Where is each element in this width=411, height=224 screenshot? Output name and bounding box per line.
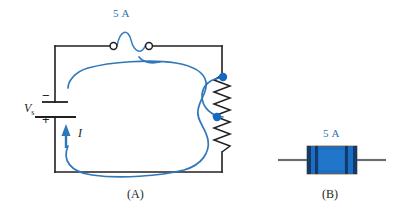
node-resistor-top	[219, 73, 227, 81]
physical-fuse	[278, 146, 386, 174]
current-label: I	[78, 127, 82, 139]
figure-container: 5 A Vs − + I (A) 5 A (B)	[0, 0, 411, 224]
circuit-drawing	[0, 0, 411, 224]
fuse-rating-label-a: 5 A	[113, 8, 130, 19]
source-label: Vs	[24, 102, 34, 117]
panel-a-caption: (A)	[127, 188, 144, 200]
fuse-terminal-right	[146, 43, 153, 50]
source-label-sub: s	[31, 108, 34, 117]
fuse-band-left-inner	[315, 146, 318, 174]
current-arrow-head	[62, 124, 71, 136]
fuse-band-right-outer	[353, 146, 357, 174]
source-negative-sign: −	[42, 89, 50, 102]
panel-b-caption: (B)	[322, 188, 338, 200]
fuse-band-right-inner	[345, 146, 348, 174]
fuse-terminal-left	[110, 43, 117, 50]
current-loop-resistor-hook	[202, 78, 223, 117]
fuse-wire-curve	[117, 32, 146, 51]
circuit-frame-wires	[55, 46, 222, 172]
fuse-rating-label-b: 5 A	[323, 128, 340, 139]
current-loop-trace	[66, 57, 223, 177]
fuse-body-highlight	[319, 150, 344, 170]
fuse-symbol	[110, 32, 152, 51]
node-resistor-tap	[213, 113, 221, 121]
source-positive-sign: +	[42, 113, 50, 126]
fuse-band-left-outer	[307, 146, 311, 174]
current-arrow	[62, 124, 71, 148]
current-loop-main	[66, 61, 208, 177]
